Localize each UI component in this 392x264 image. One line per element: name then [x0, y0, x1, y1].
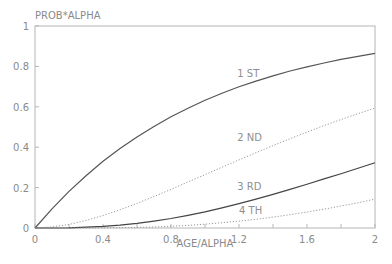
curve-label-1: 1 ST: [237, 68, 260, 79]
y-tick-label: 0.8: [13, 61, 29, 72]
curve-1: [35, 53, 375, 228]
y-tick-label: 1: [23, 21, 29, 32]
x-axis-title: AGE/ALPHA: [177, 238, 234, 249]
chart-canvas: 00.40.81.21.6200.20.40.60.81 1 ST2 ND3 R…: [0, 0, 392, 264]
curves: [35, 53, 375, 228]
curve-label-2: 2 ND: [237, 132, 262, 143]
x-tick-label: 0.4: [95, 234, 111, 245]
y-tick-label: 0.2: [13, 183, 29, 194]
curve-label-4: 4 TH: [239, 205, 262, 216]
plot-frame: [35, 26, 375, 228]
y-tick-label: 0: [23, 223, 29, 234]
x-tick-label: 2: [372, 234, 378, 245]
x-tick-label: 0: [32, 234, 38, 245]
axes: 00.40.81.21.6200.20.40.60.81: [13, 21, 378, 245]
curve-4: [35, 199, 375, 228]
y-tick-label: 0.4: [13, 142, 29, 153]
y-tick-label: 0.6: [13, 102, 29, 113]
x-tick-label: 1.6: [299, 234, 315, 245]
curve-labels: 1 ST2 ND3 RD4 TH: [237, 68, 262, 216]
curve-3: [35, 163, 375, 228]
curve-2: [35, 108, 375, 228]
curve-label-3: 3 RD: [237, 181, 261, 192]
y-axis-title: PROB*ALPHA: [35, 10, 101, 21]
